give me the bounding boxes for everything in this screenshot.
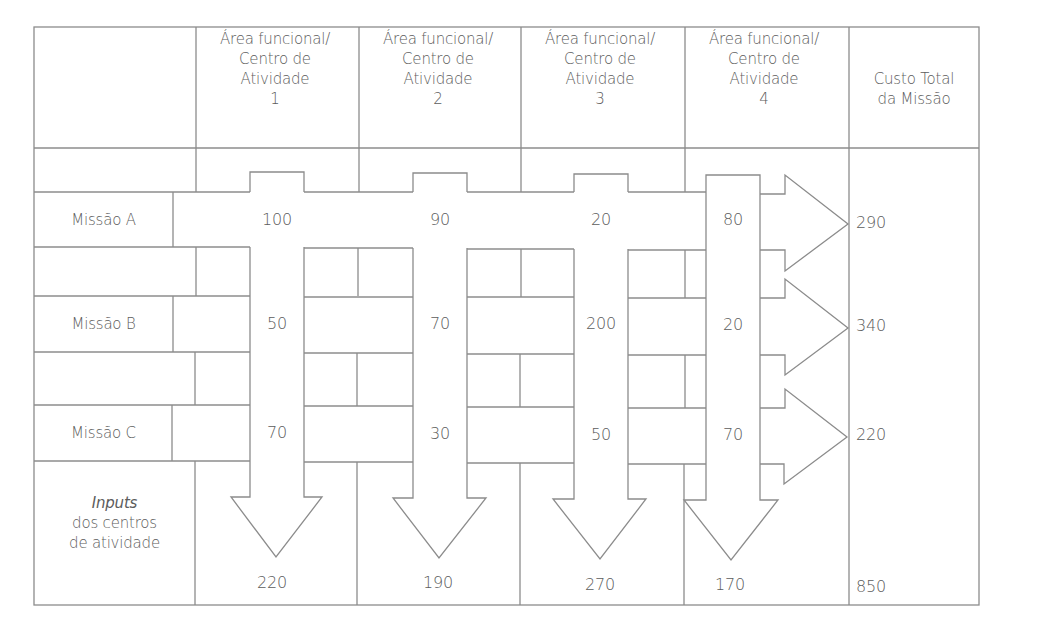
down-arrow-4 (684, 175, 778, 560)
grand-total: 850 (856, 577, 916, 597)
total-mission-a: 290 (856, 213, 906, 233)
header-activity-center-3: Área funcional/ Centro de Atividade 3 (520, 29, 680, 109)
total-mission-b: 340 (856, 316, 906, 336)
row-label-mission-b: Missão B (34, 314, 173, 334)
header-activity-center-4: Área funcional/ Centro de Atividade 4 (684, 29, 844, 109)
down-arrow-3 (553, 174, 646, 559)
header-total-mission-cost: Custo Total da Missão (849, 69, 979, 109)
input-total-4: 170 (690, 575, 770, 595)
cell-a-4: 80 (693, 210, 773, 230)
input-total-2: 190 (398, 573, 478, 593)
row-label-mission-c: Missão C (34, 423, 173, 443)
header-activity-center-1: Área funcional/ Centro de Atividade 1 (195, 29, 355, 109)
input-total-3: 270 (560, 575, 640, 595)
input-total-1: 220 (232, 573, 312, 593)
cell-a-2: 90 (400, 210, 480, 230)
cell-b-4: 20 (693, 315, 773, 335)
down-arrow-2 (393, 173, 486, 558)
cell-a-1: 100 (237, 210, 317, 230)
right-arrow-mission-a (760, 175, 848, 271)
cell-b-2: 70 (400, 314, 480, 334)
footer-label-activity-inputs: Inputs dos centros de atividade (34, 493, 195, 553)
cell-b-1: 50 (237, 314, 317, 334)
cell-c-1: 70 (237, 423, 317, 443)
cell-b-3: 200 (561, 314, 641, 334)
header-activity-center-2: Área funcional/ Centro de Atividade 2 (358, 29, 518, 109)
cell-c-2: 30 (400, 424, 480, 444)
total-mission-c: 220 (856, 425, 906, 445)
cell-c-3: 50 (561, 425, 641, 445)
right-arrow-mission-b (760, 279, 848, 375)
right-arrow-mission-c (760, 389, 847, 484)
cell-c-4: 70 (693, 425, 773, 445)
row-label-mission-a: Missão A (34, 210, 173, 230)
cell-a-3: 20 (561, 210, 641, 230)
